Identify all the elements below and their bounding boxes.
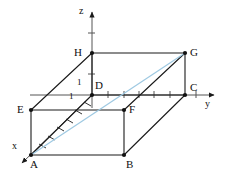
- x-axis-ticks: [39, 102, 91, 148]
- vertex-label-G: G: [190, 47, 198, 58]
- axis-label-x: x: [12, 141, 17, 151]
- vertex-label-B: B: [126, 159, 133, 170]
- vertex-dot-E: [29, 108, 33, 112]
- edge-A-D: [31, 95, 92, 155]
- vertex-dot-A: [29, 153, 33, 157]
- unit-label-x: 1: [69, 92, 74, 101]
- edge-F-G: [124, 53, 185, 110]
- vertex-dot-C: [183, 93, 187, 97]
- vertex-label-E: E: [17, 104, 24, 115]
- vertex-dot-H: [90, 51, 94, 55]
- vertex-label-F: F: [129, 104, 135, 115]
- unit-label-z: 1: [77, 78, 82, 87]
- geometry-figure: z y x 1 1 A B C D E F G H: [0, 0, 228, 178]
- vertex-label-H: H: [74, 47, 82, 58]
- vertex-dot-G: [183, 51, 187, 55]
- vertex-label-C: C: [190, 82, 197, 93]
- vertex-label-D: D: [95, 80, 103, 91]
- vertex-dot-D: [90, 93, 94, 97]
- edge-E-H: [31, 53, 92, 110]
- axis-label-y: y: [205, 99, 210, 109]
- diagonal-A-G: [31, 53, 185, 155]
- vertex-dot-F: [122, 108, 126, 112]
- vertex-dot-B: [122, 153, 126, 157]
- vertex-label-A: A: [30, 159, 38, 170]
- axis-label-z: z: [79, 6, 83, 16]
